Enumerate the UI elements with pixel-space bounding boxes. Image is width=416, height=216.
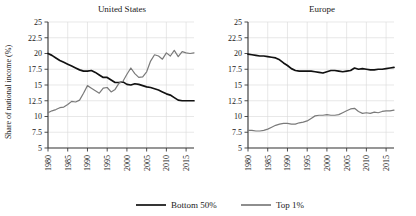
panel-europe: Europe 57.51012.51517.52022.525 19801985… [228,4,394,171]
x-tick-label-united-states-3: 1995 [103,155,112,171]
x-tick-label-united-states-5: 2005 [143,155,152,171]
y-tick-label-united-states-1: 7.5 [32,128,42,137]
x-tick-label-europe-0: 1980 [244,155,253,171]
panel-title-europe: Europe [309,4,335,14]
panel-title-united-states: United States [98,4,147,14]
x-tick-label-united-states-2: 1990 [83,155,92,171]
line-europe-bottom-50 [248,54,394,73]
x-tick-label-united-states-1: 1985 [64,155,73,171]
x-tick-label-europe-4: 2000 [323,155,332,171]
x-tick-label-united-states-7: 2015 [182,155,191,171]
series-europe [248,54,394,131]
series-united-states [48,50,194,112]
xticklabels-europe: 19801985199019952000200520102015 [244,155,391,171]
grid-united-states [48,22,194,148]
xticklabels-united-states: 19801985199019952000200520102015 [44,155,191,171]
y-tick-label-united-states-7: 22.5 [28,34,42,43]
legend-label-bottom-50: Bottom 50% [171,200,217,210]
income-share-figure: Share of national income (%) United Stat… [0,0,416,216]
y-tick-label-united-states-6: 20 [34,49,42,58]
x-tick-label-europe-6: 2010 [362,155,371,171]
x-tick-label-united-states-6: 2010 [162,155,171,171]
y-tick-label-europe-2: 10 [234,112,242,121]
line-united-states-bottom-50 [48,54,194,101]
y-tick-label-europe-6: 20 [234,49,242,58]
y-tick-label-europe-4: 15 [234,81,242,90]
grid-europe [248,22,394,148]
y-tick-label-europe-5: 17.5 [228,65,242,74]
y-tick-label-united-states-8: 25 [34,18,42,27]
panel-united-states: United States 57.51012.51517.52022.525 1… [28,4,194,171]
y-tick-label-europe-7: 22.5 [228,34,242,43]
x-tick-label-europe-1: 1985 [264,155,273,171]
yticklabels-united-states: 57.51012.51517.52022.525 [28,18,42,153]
y-tick-label-united-states-3: 12.5 [28,97,42,106]
y-tick-label-united-states-0: 5 [38,144,42,153]
x-tick-label-europe-2: 1990 [283,155,292,171]
line-united-states-top-1 [48,50,194,112]
x-tick-label-europe-5: 2005 [343,155,352,171]
legend-label-top-1: Top 1% [276,200,305,210]
y-tick-label-united-states-4: 15 [34,81,42,90]
line-europe-top-1 [248,108,394,131]
x-tick-label-europe-7: 2015 [382,155,391,171]
x-tick-label-united-states-0: 1980 [44,155,53,171]
y-tick-label-europe-3: 12.5 [228,97,242,106]
y-tick-label-united-states-5: 17.5 [28,65,42,74]
y-tick-label-europe-0: 5 [238,144,242,153]
x-tick-label-europe-3: 1995 [303,155,312,171]
y-axis-label: Share of national income (%) [4,45,13,140]
y-tick-label-europe-1: 7.5 [232,128,242,137]
y-tick-label-europe-8: 25 [234,18,242,27]
y-tick-label-united-states-2: 10 [34,112,42,121]
yticklabels-europe: 57.51012.51517.52022.525 [228,18,242,153]
legend: Bottom 50% Top 1% [136,200,305,210]
x-tick-label-united-states-4: 2000 [123,155,132,171]
